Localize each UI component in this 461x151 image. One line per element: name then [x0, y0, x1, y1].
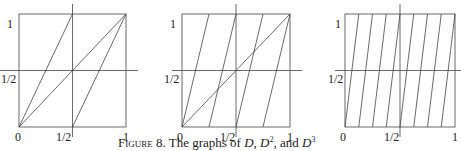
- p1-xmid: 1/2: [56, 131, 71, 143]
- caption-d3-exp: 3: [311, 135, 315, 144]
- caption-d1: D: [244, 135, 253, 150]
- panel-d3: [335, 4, 461, 137]
- figure-graphs: [0, 0, 461, 151]
- p3-xend: 1: [452, 131, 458, 143]
- caption-and: and: [280, 135, 299, 150]
- p1-y-top: 1: [7, 18, 13, 30]
- caption-d2-exp: 2: [269, 135, 273, 144]
- caption-prefix: Figure 8.: [118, 135, 166, 150]
- p1-x0: 0: [15, 131, 21, 143]
- panel-d: [0, 4, 138, 137]
- p3-x0: 0: [340, 131, 346, 143]
- p3-y-mid: 1/2: [328, 73, 343, 85]
- figure-caption: Figure 8. The graphs of D, D2, and D3: [118, 135, 315, 151]
- p3-y-top: 1: [335, 18, 341, 30]
- p2-y-mid: 1/2: [164, 73, 179, 85]
- caption-text: The graphs of: [169, 135, 241, 150]
- p2-y-top: 1: [170, 18, 176, 30]
- panel-d2: [172, 4, 302, 137]
- p3-xmid: 1/2: [384, 131, 399, 143]
- caption-d3: D: [302, 135, 311, 150]
- p1-y-mid: 1/2: [1, 73, 16, 85]
